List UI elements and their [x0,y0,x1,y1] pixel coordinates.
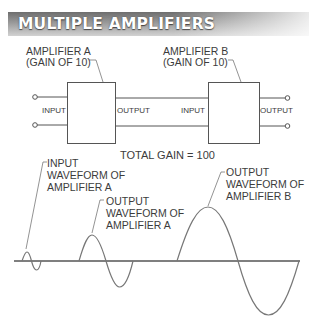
output-b-waveform-leader [208,172,225,206]
amplifier-a-box [68,83,116,144]
output-terminal-top [285,96,290,101]
amplifier-a-output-label: OUTPUT [117,106,150,116]
output-a-waveform-leader [92,200,104,233]
input-waveform-leader [26,162,47,249]
total-gain-label: TOTAL GAIN = 100 [120,149,215,161]
output-b-waveform-label-line-1: OUTPUT [226,166,269,178]
amplifier-a-input-label: INPUT [42,106,66,116]
amplifier-a-leader [89,60,103,82]
input-terminal-top [33,95,38,100]
output-b-waveform-label-line-2: WAVEFORM OF [226,178,304,190]
output-a-waveform-label-line-3: AMPLIFIER A [106,219,171,231]
amplifier-b-output-label: OUTPUT [260,106,293,116]
amplifier-b-gain: (GAIN OF 10) [163,56,228,68]
output-b-waveform-label-line-3: AMPLIFIER B [226,190,291,202]
input-terminal-bottom [33,123,38,128]
amplifier-b-box [209,83,260,144]
input-waveform-label-line-1: INPUT [47,157,79,169]
input-waveform-label-line-3: AMPLIFIER A [47,181,112,193]
amplifier-a-gain: (GAIN OF 10) [26,56,91,68]
output-a-waveform-label-line-2: WAVEFORM OF [106,207,184,219]
output-terminal-bottom [285,124,290,129]
amplifier-b-input-label: INPUT [181,106,205,116]
amplifier-b-leader [228,60,241,82]
input-waveform-label-line-2: WAVEFORM OF [47,169,125,181]
output-a-waveform-label-line-1: OUTPUT [106,195,149,207]
